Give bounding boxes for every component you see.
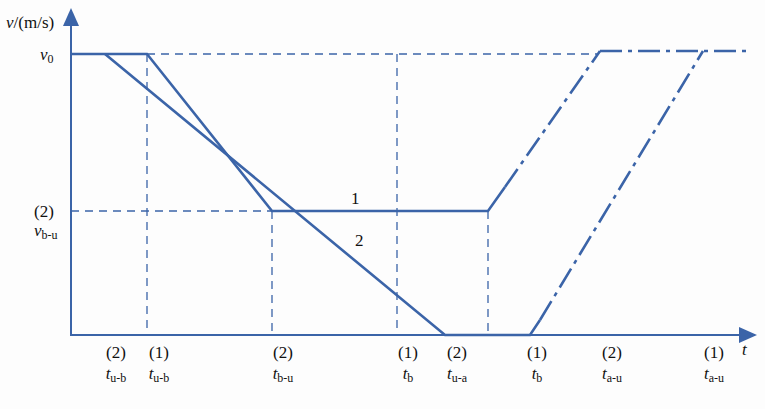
x-tick-7: (1) ta-u	[684, 344, 744, 384]
x-tick-sub: b-u	[277, 371, 293, 385]
x-tick-tag: (1)	[684, 344, 744, 361]
y-tick-name: v	[40, 45, 48, 64]
curve-2	[105, 54, 540, 335]
y-tick-name: v	[34, 221, 42, 240]
x-tick-tag: (1)	[507, 344, 567, 361]
curve-1-rise	[505, 51, 600, 187]
y-axis-var: v	[6, 13, 14, 32]
x-tick-tag: (1)	[129, 344, 189, 361]
x-tick-tag: (2)	[253, 344, 313, 361]
x-tick-sub: u-b	[110, 371, 126, 385]
x-tick-tag: (2)	[427, 344, 487, 361]
y-tick-v0: v0	[40, 46, 54, 65]
curve-1-label: 1	[351, 190, 360, 207]
x-tick-sub: a-u	[607, 371, 622, 385]
curve-1	[71, 54, 505, 211]
y-tick-vbu-tag: (2)	[34, 203, 54, 220]
x-tick-6: (2) ta-u	[582, 344, 642, 384]
y-tick-vbu: vb-u	[34, 222, 58, 241]
y-axis-label: v/(m/s)	[6, 14, 54, 31]
guide-lines	[71, 54, 598, 335]
x-tick-5: (1) tb	[507, 344, 567, 384]
curve-2-rise	[540, 51, 703, 320]
y-tick-sub: 0	[48, 52, 54, 66]
x-tick-2: (2) tb-u	[253, 344, 313, 384]
x-tick-sub: b	[407, 371, 413, 385]
x-tick-sub: a-u	[709, 371, 724, 385]
y-axis-unit: /(m/s)	[14, 13, 55, 32]
curve-2-label: 2	[355, 232, 364, 249]
x-tick-1: (1) tu-b	[129, 344, 189, 384]
x-tick-sub: b	[536, 371, 542, 385]
x-tick-sub: u-a	[452, 371, 467, 385]
x-tick-tag: (2)	[582, 344, 642, 361]
x-tick-4: (2) tu-a	[427, 344, 487, 384]
y-tick-sub: b-u	[42, 228, 58, 242]
x-tick-sub: u-b	[153, 371, 169, 385]
